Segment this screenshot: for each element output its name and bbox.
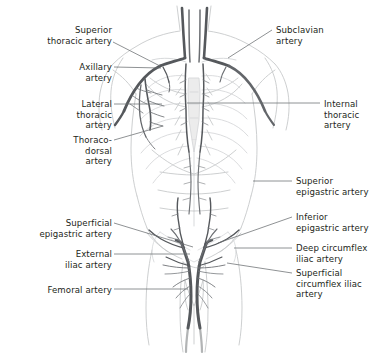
label-internal-thoracic-artery: Internal thoracic artery <box>324 99 388 131</box>
label-thoracodorsal-artery: Thoraco- dorsal artery <box>26 135 112 167</box>
label-deep-circumflex-iliac-artery: Deep circumflex iliac artery <box>296 243 388 264</box>
label-external-iliac-artery: External iliac artery <box>26 249 112 270</box>
label-lateral-thoracic-artery: Lateral thoracic artery <box>26 99 112 131</box>
label-superficial-epigastric-artery: Superficial epigastric artery <box>12 218 112 239</box>
arterial-tree <box>115 8 274 352</box>
label-axillary-artery: Axillary artery <box>26 62 112 83</box>
label-superficial-circumflex-iliac-artery: Superficial circumflex iliac artery <box>296 268 388 300</box>
anatomy-figure: Superior thoracic artery Subclavian arte… <box>0 0 388 357</box>
label-superior-epigastric-artery: Superior epigastric artery <box>296 176 388 197</box>
label-inferior-epigastric-artery: Inferior epigastric artery <box>296 212 388 233</box>
label-femoral-artery: Femoral artery <box>16 285 112 296</box>
body-outline <box>99 6 289 352</box>
label-superior-thoracic-artery: Superior thoracic artery <box>18 25 112 46</box>
label-subclavian-artery: Subclavian artery <box>276 25 376 46</box>
